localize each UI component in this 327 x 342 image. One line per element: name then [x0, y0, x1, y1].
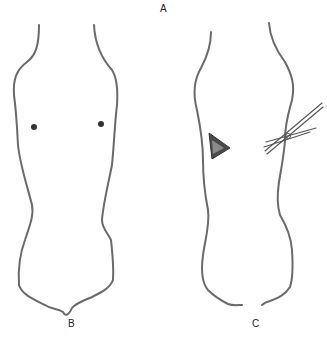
right-marker-point — [98, 121, 104, 127]
triangle-defect — [209, 133, 230, 159]
right-outline-right-side — [262, 23, 293, 305]
left-outline — [14, 25, 118, 315]
scissors-icon — [264, 103, 323, 154]
right-outline-left-side — [195, 32, 242, 305]
left-marker-point — [31, 124, 37, 130]
illustration — [0, 0, 327, 342]
